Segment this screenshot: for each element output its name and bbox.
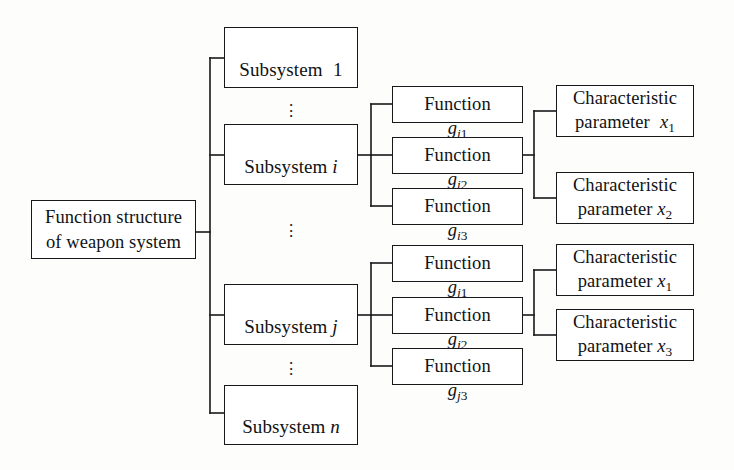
- node-function-i3[interactable]: Function gi3: [392, 188, 523, 225]
- node-function-j1[interactable]: Function gj1: [392, 245, 523, 282]
- node-subsystem-n[interactable]: Subsystem n: [224, 385, 358, 445]
- node-function-i1[interactable]: Function gi1: [392, 86, 523, 123]
- node-characteristic-x1-top[interactable]: Characteristicparameter x1: [556, 85, 694, 137]
- function-structure-diagram: Function structure of weapon system Subs…: [0, 0, 734, 470]
- node-characteristic-x2-label: Characteristicparameter x2: [568, 173, 682, 223]
- node-subsystem-j[interactable]: Subsystem j: [224, 284, 358, 345]
- node-root-label: Function structure of weapon system: [40, 205, 187, 253]
- node-function-j2[interactable]: Function gj2: [392, 297, 523, 334]
- node-function-j3-label: Function gj3: [419, 329, 496, 403]
- ellipsis-sub-1-i: ...: [284, 98, 298, 115]
- node-root[interactable]: Function structure of weapon system: [31, 200, 196, 259]
- node-characteristic-x3-label: Characteristicparameter x3: [568, 310, 682, 360]
- node-subsystem-1-label: Subsystem 1: [234, 33, 347, 82]
- node-subsystem-i-label: Subsystem i: [239, 130, 343, 179]
- node-function-i2[interactable]: Function gi2: [392, 137, 523, 174]
- node-subsystem-i[interactable]: Subsystem i: [224, 124, 358, 185]
- ellipsis-sub-j-n: ...: [284, 356, 298, 373]
- node-characteristic-x2[interactable]: Characteristicparameter x2: [556, 172, 694, 224]
- node-characteristic-x1-top-label: Characteristicparameter x1: [568, 86, 682, 136]
- node-subsystem-1[interactable]: Subsystem 1: [224, 27, 358, 88]
- node-characteristic-x1-bottom[interactable]: Characteristicparameter x1: [556, 244, 694, 296]
- node-characteristic-x1-bottom-label: Characteristicparameter x1: [568, 245, 682, 295]
- ellipsis-sub-i-j: ...: [284, 218, 298, 235]
- node-subsystem-j-label: Subsystem j: [239, 290, 343, 339]
- node-characteristic-x3[interactable]: Characteristicparameter x3: [556, 309, 694, 361]
- node-function-j3[interactable]: Function gj3: [392, 348, 523, 385]
- node-subsystem-n-label: Subsystem n: [237, 390, 345, 439]
